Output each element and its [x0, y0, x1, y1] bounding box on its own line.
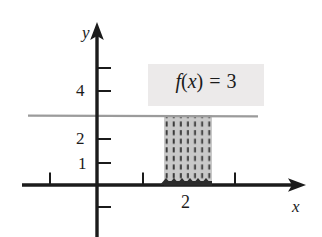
coordinate-plot	[0, 0, 322, 237]
function-label-variable: x	[188, 70, 197, 92]
shaded-area-region	[164, 116, 212, 186]
x-axis-label: x	[292, 198, 300, 215]
function-label: f(x) = 3	[148, 70, 264, 93]
function-label-equals: =	[209, 70, 220, 92]
y-tick-label-1: 1	[78, 155, 87, 172]
y-tick-label-4: 4	[76, 82, 85, 99]
y-tick-label-2: 2	[76, 130, 85, 147]
function-label-paren-open: (	[181, 70, 188, 92]
y-axis-label: y	[82, 24, 90, 41]
function-line-f-of-x-equals-3	[28, 116, 258, 117]
x-tick-label-2: 2	[181, 193, 190, 211]
function-label-value: 3	[227, 70, 237, 92]
y-axis	[90, 22, 104, 237]
figure-container: · · ·	[0, 0, 322, 237]
